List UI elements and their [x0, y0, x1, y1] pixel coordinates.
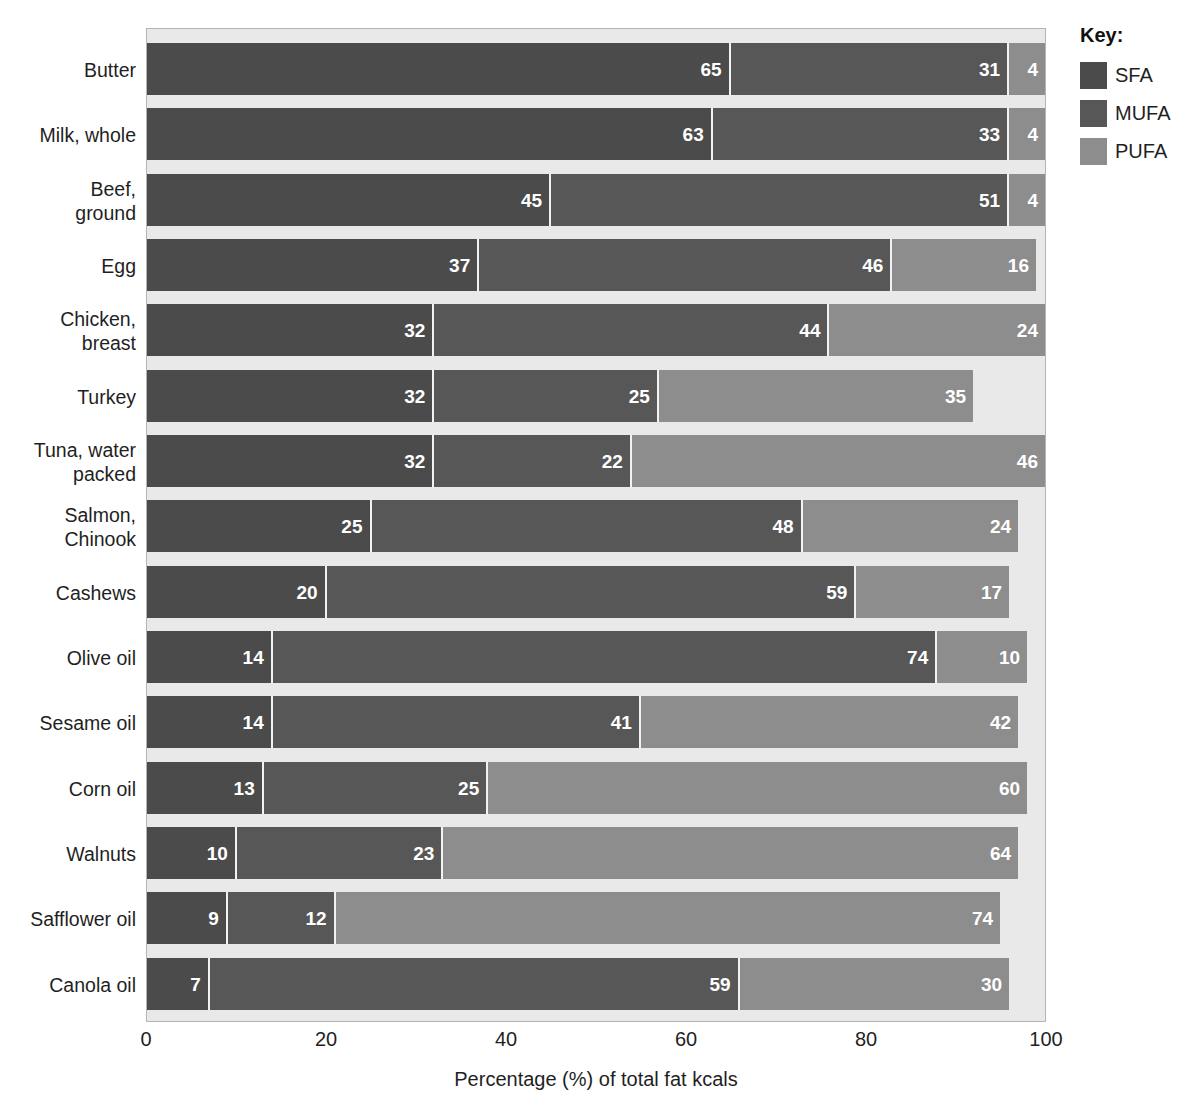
bar-segment-pufa: 46 — [632, 435, 1045, 487]
legend-title: Key: — [1080, 24, 1177, 47]
bar-segment-mufa: 48 — [372, 500, 803, 552]
bar-row: 63334 — [147, 108, 1045, 160]
legend-label: MUFA — [1115, 102, 1171, 125]
legend-swatch-sfa — [1080, 62, 1107, 89]
x-tick-label: 40 — [495, 1028, 517, 1051]
segment-value-label: 48 — [772, 517, 793, 536]
x-axis-ticks: 020406080100 — [146, 1022, 1046, 1062]
segment-value-label: 4 — [1027, 190, 1038, 209]
category-label: Beef, ground — [0, 177, 136, 225]
bar-segment-pufa: 74 — [336, 892, 1001, 944]
segment-value-label: 24 — [1017, 321, 1038, 340]
segment-value-label: 37 — [449, 256, 470, 275]
bar-segment-mufa: 59 — [327, 566, 857, 618]
segment-value-label: 9 — [208, 909, 219, 928]
bar-row: 65314 — [147, 43, 1045, 95]
chart-legend: Key: SFAMUFAPUFA — [1080, 24, 1177, 170]
bar-segment-sfa: 25 — [147, 500, 372, 552]
segment-value-label: 30 — [981, 974, 1002, 993]
segment-value-label: 4 — [1027, 60, 1038, 79]
segment-value-label: 32 — [404, 386, 425, 405]
segment-value-label: 7 — [190, 974, 201, 993]
category-label: Olive oil — [0, 646, 136, 670]
segment-value-label: 31 — [979, 60, 1000, 79]
segment-value-label: 44 — [799, 321, 820, 340]
bar-row: 91274 — [147, 892, 1045, 944]
segment-value-label: 46 — [862, 256, 883, 275]
bar-row: 132560 — [147, 762, 1045, 814]
bar-row: 144142 — [147, 696, 1045, 748]
bar-segment-sfa: 14 — [147, 696, 273, 748]
legend-item-sfa: SFA — [1080, 56, 1177, 94]
bar-segment-pufa: 4 — [1009, 43, 1045, 95]
segment-value-label: 35 — [945, 386, 966, 405]
segment-value-label: 65 — [701, 60, 722, 79]
bar-segment-mufa: 33 — [713, 108, 1009, 160]
bar-segment-mufa: 25 — [434, 370, 659, 422]
legend-label: SFA — [1115, 64, 1153, 87]
bar-segment-sfa: 10 — [147, 827, 237, 879]
segment-value-label: 12 — [305, 909, 326, 928]
bar-segment-pufa: 17 — [856, 566, 1009, 618]
bar-segment-mufa: 44 — [434, 304, 829, 356]
bar-row: 102364 — [147, 827, 1045, 879]
category-label: Salmon, Chinook — [0, 503, 136, 551]
segment-value-label: 25 — [629, 386, 650, 405]
stacked-bar-chart: ButterMilk, wholeBeef, groundEggChicken,… — [0, 0, 1177, 1114]
bar-segment-mufa: 25 — [264, 762, 489, 814]
segment-value-label: 74 — [972, 909, 993, 928]
segment-value-label: 22 — [602, 452, 623, 471]
segment-value-label: 25 — [341, 517, 362, 536]
bar-segment-pufa: 30 — [740, 958, 1009, 1010]
segment-value-label: 59 — [826, 582, 847, 601]
segment-value-label: 64 — [990, 844, 1011, 863]
bar-segment-pufa: 64 — [443, 827, 1018, 879]
bar-segment-pufa: 4 — [1009, 174, 1045, 226]
bar-segment-mufa: 74 — [273, 631, 938, 683]
bar-segment-mufa: 59 — [210, 958, 740, 1010]
category-label: Safflower oil — [0, 907, 136, 931]
segment-value-label: 42 — [990, 713, 1011, 732]
bar-row: 205917 — [147, 566, 1045, 618]
segment-value-label: 14 — [243, 713, 264, 732]
category-label: Egg — [0, 254, 136, 278]
segment-value-label: 45 — [521, 190, 542, 209]
bar-row: 147410 — [147, 631, 1045, 683]
category-label: Butter — [0, 58, 136, 82]
segment-value-label: 60 — [999, 778, 1020, 797]
bar-row: 45514 — [147, 174, 1045, 226]
bar-segment-mufa: 41 — [273, 696, 641, 748]
bar-segment-mufa: 22 — [434, 435, 632, 487]
category-label: Chicken, breast — [0, 307, 136, 355]
segment-value-label: 23 — [413, 844, 434, 863]
bar-segment-pufa: 24 — [829, 304, 1045, 356]
segment-value-label: 13 — [234, 778, 255, 797]
category-label: Canola oil — [0, 973, 136, 997]
segment-value-label: 51 — [979, 190, 1000, 209]
legend-item-mufa: MUFA — [1080, 94, 1177, 132]
segment-value-label: 20 — [296, 582, 317, 601]
bar-segment-mufa: 51 — [551, 174, 1009, 226]
bar-row: 254824 — [147, 500, 1045, 552]
bar-segment-sfa: 14 — [147, 631, 273, 683]
bar-segment-sfa: 65 — [147, 43, 731, 95]
bar-segment-pufa: 16 — [892, 239, 1036, 291]
category-label: Turkey — [0, 385, 136, 409]
bar-segment-sfa: 45 — [147, 174, 551, 226]
x-tick-label: 20 — [315, 1028, 337, 1051]
category-label: Tuna, water packed — [0, 438, 136, 486]
x-tick-label: 100 — [1029, 1028, 1062, 1051]
bar-segment-mufa: 46 — [479, 239, 892, 291]
bar-segment-sfa: 7 — [147, 958, 210, 1010]
x-tick-label: 0 — [140, 1028, 151, 1051]
bar-segment-pufa: 60 — [488, 762, 1027, 814]
bar-row: 324424 — [147, 304, 1045, 356]
legend-swatch-pufa — [1080, 138, 1107, 165]
bar-segment-sfa: 32 — [147, 304, 434, 356]
segment-value-label: 16 — [1008, 256, 1029, 275]
category-label: Cashews — [0, 581, 136, 605]
segment-value-label: 10 — [999, 648, 1020, 667]
bar-segment-sfa: 63 — [147, 108, 713, 160]
segment-value-label: 32 — [404, 321, 425, 340]
bar-segment-sfa: 32 — [147, 370, 434, 422]
